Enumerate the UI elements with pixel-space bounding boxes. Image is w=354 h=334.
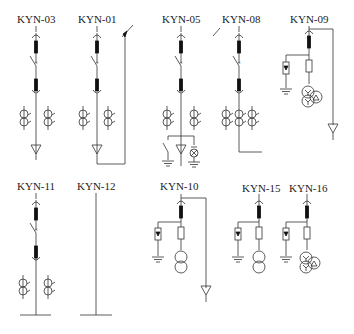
cabinet-kyn-01 xyxy=(79,25,133,164)
cabinet-kyn-03 xyxy=(20,26,55,160)
cabinet-kyn-10 xyxy=(152,194,211,302)
cabinet-kyn-16 xyxy=(280,194,320,273)
cabinet-kyn-09 xyxy=(280,26,338,140)
schematic-diagram: × xyxy=(0,0,354,334)
cabinet-kyn-08 xyxy=(222,26,262,152)
cabinet-kyn-15 xyxy=(232,194,265,273)
cabinet-kyn-05 xyxy=(162,26,220,167)
cabinet-kyn-11 xyxy=(19,193,55,315)
cabinet-kyn-12 xyxy=(80,193,112,315)
